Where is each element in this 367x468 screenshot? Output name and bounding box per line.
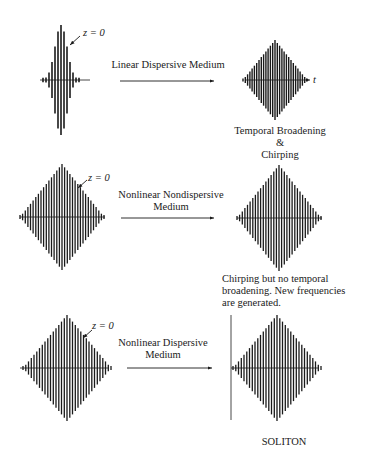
- row2-result-line3: are generated.: [222, 297, 281, 309]
- row3-input-label: z = 0: [92, 320, 114, 332]
- row1-output-axis-label: t: [313, 74, 316, 86]
- row2-medium-label-line1: Nonlinear Nondispersive: [110, 189, 232, 201]
- row3-z-pointer: [83, 330, 92, 338]
- row1-result-line2: &: [225, 137, 335, 149]
- row3-medium-label-line2: Medium: [108, 349, 218, 361]
- row1-result-line1: Temporal Broadening: [225, 125, 335, 137]
- row2-result-line1: Chirping but no temporal: [222, 273, 328, 285]
- row3-result-label: SOLITON: [244, 436, 324, 448]
- row1-output-pulse: [243, 40, 310, 120]
- row3-output-pulse: [231, 315, 321, 421]
- row2-z-pointer: [78, 180, 87, 188]
- row2-input-label: z = 0: [88, 172, 110, 184]
- row1-input-label: z = 0: [83, 27, 105, 39]
- row1-result-line3: Chirping: [225, 149, 335, 161]
- row1-z-pointer: [70, 36, 80, 45]
- row1-input-pulse: [40, 25, 90, 135]
- row2-output-pulse: [237, 165, 322, 271]
- row3-medium-label-line1: Nonlinear Dispersive: [108, 337, 218, 349]
- row2-medium-label-line2: Medium: [110, 201, 232, 213]
- row1-medium-label: Linear Dispersive Medium: [110, 59, 226, 71]
- row2-result-line2: broadening. New frequencies: [222, 285, 345, 297]
